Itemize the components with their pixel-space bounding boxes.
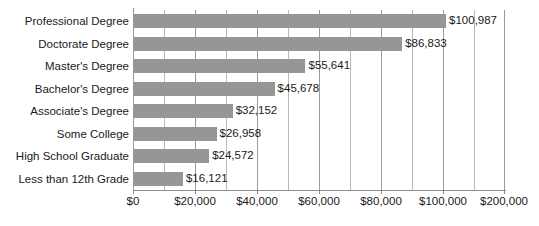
- category-label: Master's Degree: [1, 58, 129, 74]
- bar-row: $26,958: [133, 123, 505, 146]
- bar-row: $45,678: [133, 78, 505, 101]
- x-tick-mark: [257, 190, 258, 194]
- bar: [133, 37, 402, 51]
- category-label: Doctorate Degree: [1, 36, 129, 52]
- x-tick-label: $0: [127, 193, 140, 209]
- bar: [133, 82, 275, 96]
- bar-row: $16,121: [133, 168, 505, 191]
- x-tick-mark: [381, 190, 382, 194]
- x-tick-labels: $0$20,000$40,000$60,000$80,000$100,000$2…: [0, 193, 539, 213]
- x-tick-label: $20,000: [174, 193, 216, 209]
- bar: [133, 172, 183, 186]
- x-tick-label: $40,000: [236, 193, 278, 209]
- bar: [133, 14, 446, 28]
- category-label: Bachelor's Degree: [1, 81, 129, 97]
- bar-value-label: $86,833: [405, 35, 447, 51]
- category-label: Some College: [1, 126, 129, 142]
- category-axis: Professional DegreeDoctorate DegreeMaste…: [0, 10, 129, 190]
- x-tick-mark: [504, 190, 505, 194]
- category-label: Associate's Degree: [1, 103, 129, 119]
- bar-value-label: $100,987: [449, 12, 497, 28]
- x-tick-label: $60,000: [298, 193, 340, 209]
- bar-row: $86,833: [133, 33, 505, 56]
- bar: [133, 149, 209, 163]
- bar-value-label: $45,678: [278, 80, 320, 96]
- plot-area: $100,987$86,833$55,641$45,678$32,152$26,…: [133, 10, 505, 190]
- x-tick-label: $200,000: [480, 193, 528, 209]
- category-label: Professional Degree: [1, 13, 129, 29]
- bar-value-label: $16,121: [186, 170, 228, 186]
- bar-chart: Professional DegreeDoctorate DegreeMaste…: [0, 0, 539, 226]
- category-label: Less than 12th Grade: [1, 171, 129, 187]
- x-tick-label: $100,000: [419, 193, 467, 209]
- bar-row: $24,572: [133, 145, 505, 168]
- bar-value-label: $32,152: [236, 102, 278, 118]
- bar-row: $55,641: [133, 55, 505, 78]
- x-tick-label: $80,000: [360, 193, 402, 209]
- bar-value-label: $55,641: [308, 57, 350, 73]
- x-tick-mark: [133, 190, 134, 194]
- x-tick-mark: [319, 190, 320, 194]
- bar-value-label: $24,572: [212, 147, 254, 163]
- bar-row: $32,152: [133, 100, 505, 123]
- x-tick-mark: [195, 190, 196, 194]
- bar-value-label: $26,958: [220, 125, 262, 141]
- category-label: High School Graduate: [1, 148, 129, 164]
- bar-row: $100,987: [133, 10, 505, 33]
- x-tick-mark: [443, 190, 444, 194]
- bar: [133, 104, 233, 118]
- bar: [133, 127, 217, 141]
- bar: [133, 59, 305, 73]
